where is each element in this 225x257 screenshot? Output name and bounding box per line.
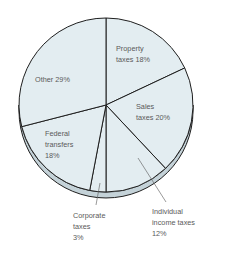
slice-label-other: Other 29% xyxy=(35,75,70,84)
pie-chart: Propertytaxes 18%Salestaxes 20%Individua… xyxy=(0,0,225,257)
slice-label-corporate-taxes: Corporatetaxes3% xyxy=(73,211,105,242)
slice-label-individual-income-taxes: Individualincome taxes12% xyxy=(152,207,195,238)
